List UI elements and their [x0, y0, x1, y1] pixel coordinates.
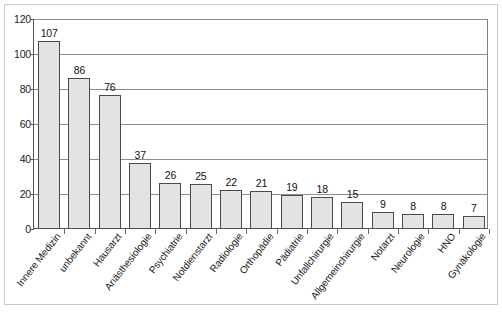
- x-axis-category-labels: Innere MedizinunbekanntHausarztAnästhesi…: [33, 231, 488, 305]
- bar[interactable]: [159, 183, 181, 229]
- bar-value-label: 25: [195, 170, 206, 182]
- x-tick-mark: [489, 229, 490, 234]
- bar-slot: 18: [307, 19, 337, 228]
- y-tick-label: 80: [3, 83, 31, 95]
- bar-value-label: 8: [441, 200, 447, 212]
- bar-slot: 26: [155, 19, 185, 228]
- y-tick-label: 100: [3, 48, 31, 60]
- bar[interactable]: [341, 202, 363, 228]
- x-axis-label: HNO: [435, 231, 457, 255]
- bar[interactable]: [432, 214, 454, 228]
- bar-slot: 19: [277, 19, 307, 228]
- bar-slot: 8: [398, 19, 428, 228]
- y-tick-label: 0: [3, 223, 31, 235]
- bar-slot: 86: [64, 19, 94, 228]
- bar-value-label: 8: [410, 200, 416, 212]
- y-tick-label: 60: [3, 118, 31, 130]
- bar[interactable]: [402, 214, 424, 228]
- bar-value-label: 7: [471, 202, 477, 214]
- y-tick-label: 120: [3, 13, 31, 25]
- bar-slot: 8: [428, 19, 458, 228]
- bar-slot: 107: [34, 19, 64, 228]
- x-axis-label: Notarzt: [368, 231, 396, 263]
- bar[interactable]: [190, 184, 212, 228]
- bar-value-label: 86: [74, 64, 85, 76]
- bar-slot: 21: [246, 19, 276, 228]
- bar-series: 107867637262522211918159887: [34, 19, 487, 228]
- bar-slot: 22: [216, 19, 246, 228]
- bar-slot: 37: [125, 19, 155, 228]
- y-tick-mark: [30, 229, 34, 230]
- bar-value-label: 21: [256, 177, 267, 189]
- bar[interactable]: [68, 78, 90, 229]
- bar-value-label: 107: [41, 27, 58, 39]
- bar[interactable]: [220, 190, 242, 229]
- bar-value-label: 22: [226, 176, 237, 188]
- bar-slot: 25: [186, 19, 216, 228]
- bar-value-label: 19: [286, 181, 297, 193]
- bar-slot: 7: [459, 19, 489, 228]
- bar[interactable]: [38, 41, 60, 228]
- bar-value-label: 15: [347, 188, 358, 200]
- y-tick-label: 20: [3, 188, 31, 200]
- x-axis-label: Allgemeinchirurgie: [308, 231, 366, 301]
- bar[interactable]: [129, 163, 151, 228]
- bar-value-label: 9: [380, 198, 386, 210]
- bar[interactable]: [372, 212, 394, 228]
- bar[interactable]: [250, 191, 272, 228]
- bar[interactable]: [281, 195, 303, 228]
- bar-value-label: 37: [135, 149, 146, 161]
- plot-area: 107867637262522211918159887: [33, 19, 488, 229]
- bar[interactable]: [311, 197, 333, 229]
- bar-slot: 76: [95, 19, 125, 228]
- bar-value-label: 76: [104, 81, 115, 93]
- bar[interactable]: [463, 216, 485, 228]
- bar[interactable]: [99, 95, 121, 228]
- y-axis: 020406080100120: [0, 19, 31, 229]
- bar-chart-figure: 020406080100120 107867637262522211918159…: [0, 0, 502, 316]
- bar-value-label: 18: [317, 183, 328, 195]
- y-tick-label: 40: [3, 153, 31, 165]
- bar-value-label: 26: [165, 169, 176, 181]
- bar-slot: 9: [368, 19, 398, 228]
- bar-slot: 15: [337, 19, 367, 228]
